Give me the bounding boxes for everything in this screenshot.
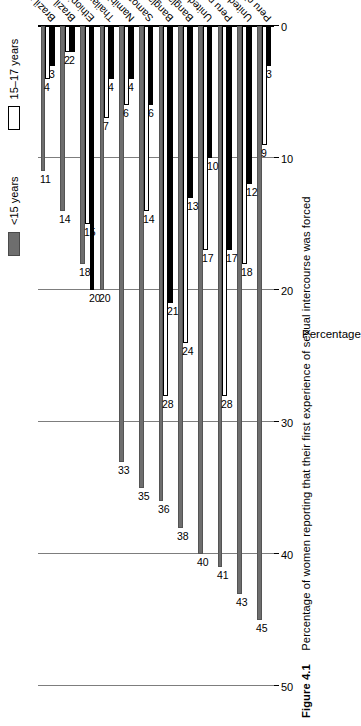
chart-legend: <15 years 15–17 years 18+ years xyxy=(8,0,20,256)
bar-chart-plot-area: 4593431812412817401710382413362821351463… xyxy=(38,26,274,686)
bar-row: 4 xyxy=(109,26,114,686)
bar-row: 2 xyxy=(70,26,75,686)
bar-a18plus xyxy=(50,26,55,66)
bar-a18plus xyxy=(188,26,193,198)
bar-value-label: 4 xyxy=(108,82,114,92)
bar-value-label: 6 xyxy=(148,108,154,118)
bar-a18plus xyxy=(168,26,173,303)
bar-a18plus xyxy=(149,26,154,105)
bar-a18plus xyxy=(109,26,114,79)
bar-row: 10 xyxy=(208,26,213,686)
bar-value-label: 21 xyxy=(167,306,179,316)
bar-group: 1422 xyxy=(60,26,75,686)
bar-a18plus xyxy=(247,26,252,184)
value-tick-mark-30 xyxy=(274,421,279,422)
value-tick-label-0: 0 xyxy=(281,22,287,34)
bar-row: 12 xyxy=(247,26,252,686)
bar-group: 2074 xyxy=(100,26,115,686)
bar-value-label: 12 xyxy=(246,187,258,197)
bar-group: 401710 xyxy=(198,26,213,686)
bar-value-label: 3 xyxy=(266,69,272,79)
figure-number: Figure 4.1 xyxy=(300,664,312,718)
legend-item-15-17: 15–17 years xyxy=(8,39,20,131)
bar-value-label: 13 xyxy=(187,201,199,211)
value-tick-mark-10 xyxy=(274,157,279,158)
bar-row: 20 xyxy=(90,26,95,686)
bar-a18plus xyxy=(90,26,95,290)
bar-a18plus xyxy=(208,26,213,158)
legend-label-15-17: 15–17 years xyxy=(8,39,20,100)
legend-swatch-icon-under15 xyxy=(8,232,20,256)
bar-a18plus xyxy=(227,26,232,250)
bar-row: 4 xyxy=(129,26,134,686)
bar-group: 35146 xyxy=(139,26,154,686)
bar-group: 181520 xyxy=(80,26,95,686)
bar-group: 362821 xyxy=(159,26,174,686)
value-tick-label-20: 20 xyxy=(281,286,293,298)
bar-a18plus xyxy=(129,26,134,79)
bar-group: 3364 xyxy=(119,26,134,686)
legend-label-under15: <15 years xyxy=(8,176,20,225)
bar-group: 4593 xyxy=(257,26,272,686)
bar-row: 13 xyxy=(188,26,193,686)
bar-row: 6 xyxy=(149,26,154,686)
bar-value-label: 2 xyxy=(69,55,75,65)
value-tick-label-40: 40 xyxy=(281,550,293,562)
value-tick-mark-40 xyxy=(274,553,279,554)
bar-value-label: 17 xyxy=(226,253,238,263)
bar-group: 431812 xyxy=(237,26,252,686)
bar-row: 3 xyxy=(267,26,272,686)
bar-a18plus xyxy=(70,26,75,52)
bar-group: 382413 xyxy=(178,26,193,686)
value-tick-mark-20 xyxy=(274,289,279,290)
value-tick-mark-0 xyxy=(274,25,279,26)
figure-caption-text: Percentage of women reporting that their… xyxy=(300,196,312,650)
legend-swatch-icon-15-17 xyxy=(8,106,20,130)
bar-group: 1143 xyxy=(41,26,56,686)
value-tick-mark-50 xyxy=(274,685,279,686)
bar-row: 17 xyxy=(227,26,232,686)
value-tick-label-50: 50 xyxy=(281,682,293,694)
bar-value-label: 3 xyxy=(49,69,55,79)
bar-group: 412817 xyxy=(218,26,233,686)
bar-row: 21 xyxy=(168,26,173,686)
bar-a18plus xyxy=(267,26,272,66)
value-tick-label-30: 30 xyxy=(281,418,293,430)
bar-value-label: 10 xyxy=(207,161,219,171)
bar-value-label: 4 xyxy=(128,82,134,92)
legend-item-under15: <15 years xyxy=(8,176,20,256)
bar-value-label: 20 xyxy=(89,293,101,303)
value-tick-label-10: 10 xyxy=(281,154,293,166)
value-axis-title: Percentage xyxy=(302,328,361,340)
bar-row: 3 xyxy=(50,26,55,686)
figure-caption: Figure 4.1 Percentage of women reporting… xyxy=(300,6,334,718)
